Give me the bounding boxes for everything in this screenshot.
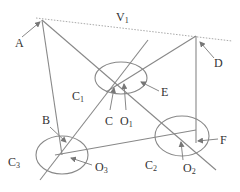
label-c3: C3 — [8, 155, 20, 170]
arrow-a — [22, 22, 40, 37]
label-v1: V1 — [116, 10, 129, 25]
arrow-o2 — [181, 142, 183, 160]
label-f: F — [220, 133, 227, 147]
label-b: B — [42, 113, 50, 127]
line-diagonal-o1-b — [40, 40, 148, 180]
label-o2: O2 — [183, 161, 196, 176]
ellipse-o1 — [95, 62, 147, 94]
label-c: C — [105, 114, 113, 128]
label-o3: O3 — [95, 160, 108, 175]
label-c2: C2 — [145, 158, 157, 173]
line-a-to-f — [42, 20, 216, 170]
arrow-o1 — [124, 84, 126, 110]
label-d: D — [214, 56, 223, 70]
diagram-canvas: A D V1 C1 E C O1 B C3 O3 C2 O2 F — [0, 0, 240, 192]
arrow-d — [200, 42, 214, 58]
label-a: A — [15, 36, 24, 50]
arrow-o3 — [71, 158, 92, 165]
label-c1: C1 — [72, 89, 84, 104]
arrow-c — [110, 88, 114, 110]
dotted-line-v1 — [36, 18, 232, 41]
line-d-to-o1 — [106, 36, 196, 92]
label-e: E — [161, 85, 168, 99]
label-o1: O1 — [120, 114, 133, 129]
line-a-to-b — [42, 20, 62, 155]
